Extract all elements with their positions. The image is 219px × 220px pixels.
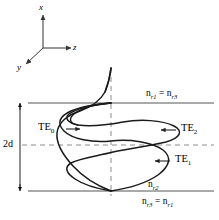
te2-upper-tail [71, 103, 111, 125]
axes-triad [26, 15, 71, 64]
bottom-n-sub2: r1 [167, 201, 173, 208]
waveguide-mode-figure: x z y 2d nr1 = nr3 nr2 nr3 = nr1 TE0 TE2… [0, 0, 219, 220]
top-refractive-index-label: nr1 = nr3 [146, 89, 177, 100]
te1-order: 1 [188, 159, 192, 167]
te2-name: TE [181, 122, 194, 133]
core-n-sub: r2 [153, 184, 159, 191]
figure-canvas [0, 0, 219, 220]
y-axis-arrow [26, 48, 43, 64]
bottom-n-equals: = n [153, 196, 168, 206]
te1-name: TE [175, 153, 188, 164]
top-n-equals: = n [157, 88, 172, 98]
core-refractive-index-label: nr2 [148, 180, 159, 191]
te0-order: 0 [51, 127, 55, 135]
te0-upper-evanescent-tail [105, 68, 111, 92]
te1-mode-curve [60, 103, 169, 191]
top-n-sub2: r3 [171, 93, 177, 100]
te0-mode-curve [57, 68, 111, 191]
te0-name: TE [38, 121, 51, 132]
te1-mode-label: TE1 [175, 154, 191, 167]
x-axis-label: x [39, 3, 43, 12]
thickness-label: 2d [3, 139, 13, 149]
te0-mode-label: TE0 [38, 122, 54, 135]
te2-mode-label: TE2 [181, 123, 197, 136]
te2-mode-curve [67, 103, 180, 191]
te2-order: 2 [194, 128, 198, 136]
z-axis-label: z [73, 43, 77, 52]
bottom-refractive-index-label: nr3 = nr1 [142, 197, 173, 208]
y-axis-label: y [17, 63, 21, 72]
